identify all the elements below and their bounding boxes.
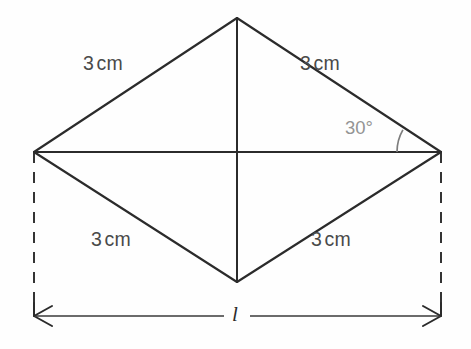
label-side-top-left: 3cm: [83, 52, 123, 75]
label-dimension-l: l: [227, 302, 243, 327]
label-side-bottom-left-unit: cm: [105, 228, 131, 250]
label-side-top-left-value: 3: [83, 52, 94, 74]
rhombus-edge-bottom-left: [34, 152, 237, 282]
label-side-bottom-right-unit: cm: [325, 228, 351, 250]
label-side-bottom-right-value: 3: [311, 228, 322, 250]
label-angle-30: 30°: [345, 117, 373, 139]
label-side-bottom-left: 3cm: [91, 228, 131, 251]
figure-canvas: [0, 0, 471, 349]
rhombus-edge-bottom-right: [237, 152, 441, 282]
label-side-top-right: 3cm: [300, 52, 340, 75]
label-side-top-right-value: 3: [300, 52, 311, 74]
label-side-top-left-unit: cm: [97, 52, 123, 74]
rhombus-edge-top-right: [237, 18, 441, 152]
geometry-figure: 3cm 3cm 3cm 3cm 30° l: [0, 0, 471, 349]
label-side-bottom-right: 3cm: [311, 228, 351, 251]
rhombus-edge-top-left: [34, 18, 237, 152]
label-side-bottom-left-value: 3: [91, 228, 102, 250]
label-side-top-right-unit: cm: [314, 52, 340, 74]
angle-arc-30: [397, 130, 403, 152]
